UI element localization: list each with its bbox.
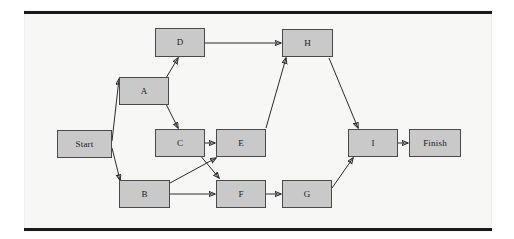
node-a[interactable]: A <box>119 77 169 105</box>
top-rule <box>24 11 492 14</box>
node-h-label: H <box>304 39 311 48</box>
node-c-label: C <box>177 139 183 148</box>
node-finish[interactable]: Finish <box>409 129 461 157</box>
node-d-label: D <box>177 38 184 47</box>
node-f-label: F <box>238 190 243 199</box>
diagram-canvas: Start A B C D E F G H I Finish <box>0 0 514 239</box>
node-i[interactable]: I <box>348 129 398 157</box>
node-finish-label: Finish <box>423 139 447 148</box>
node-c[interactable]: C <box>155 129 205 157</box>
node-start-label: Start <box>76 140 94 149</box>
node-g[interactable]: G <box>282 180 332 208</box>
node-g-label: G <box>304 190 311 199</box>
node-f[interactable]: F <box>216 180 266 208</box>
node-i-label: I <box>371 139 374 148</box>
node-e[interactable]: E <box>216 129 266 157</box>
node-d[interactable]: D <box>155 28 205 57</box>
node-start[interactable]: Start <box>57 130 112 158</box>
node-h[interactable]: H <box>282 29 333 57</box>
bottom-rule <box>24 228 492 231</box>
node-b-label: B <box>141 190 147 199</box>
node-a-label: A <box>141 87 148 96</box>
node-e-label: E <box>238 139 244 148</box>
node-b[interactable]: B <box>119 180 170 208</box>
